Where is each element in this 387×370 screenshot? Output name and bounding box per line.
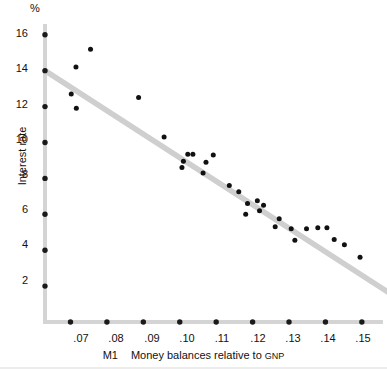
y-tick-dot-8	[42, 176, 47, 181]
x-tick-dot-01	[177, 319, 182, 324]
data-point	[255, 198, 260, 203]
data-point	[342, 242, 347, 247]
x-tick-dot-011	[213, 319, 218, 324]
data-point	[73, 65, 78, 70]
x-tick-dot-007	[68, 319, 73, 324]
data-point	[273, 224, 278, 229]
x-tick-dot-009	[141, 319, 146, 324]
x-tick-dot-014	[323, 319, 328, 324]
data-point	[358, 255, 363, 260]
x-tick-dot-008	[104, 319, 109, 324]
data-point	[324, 225, 329, 230]
data-point	[243, 212, 248, 217]
data-point	[304, 226, 309, 231]
data-point	[181, 159, 186, 164]
y-tick-dot-16	[42, 32, 47, 37]
y-tick-dot-12	[42, 104, 47, 109]
y-tick-dot-2	[42, 283, 47, 288]
plot-area	[0, 0, 387, 370]
data-point	[136, 95, 141, 100]
data-point	[88, 47, 93, 52]
chart-figure: % Interest rate 16 14 12 10 8 6 4 2 .07 …	[0, 0, 387, 370]
data-point	[332, 237, 337, 242]
trend-line	[45, 71, 387, 296]
data-point	[203, 160, 208, 165]
data-point	[179, 165, 184, 170]
data-point	[162, 135, 167, 140]
x-tick-dot-013	[286, 319, 291, 324]
data-point	[201, 171, 206, 176]
scatter-points	[69, 47, 363, 260]
data-point	[69, 92, 74, 97]
data-point	[227, 183, 232, 188]
data-point	[185, 152, 190, 157]
y-tick-dot-6	[42, 212, 47, 217]
data-point	[261, 203, 266, 208]
data-point	[277, 216, 282, 221]
data-point	[289, 226, 294, 231]
x-tick-dot-012	[250, 319, 255, 324]
data-point	[74, 106, 79, 111]
data-point	[257, 208, 262, 213]
x-tick-dot-015	[359, 319, 364, 324]
data-point	[245, 201, 250, 206]
data-point	[211, 153, 216, 158]
y-tick-dot-14	[42, 68, 47, 73]
data-point	[315, 225, 320, 230]
y-tick-dot-4	[42, 247, 47, 252]
data-point	[190, 152, 195, 157]
data-point	[236, 189, 241, 194]
trend-line-segment	[45, 71, 387, 296]
y-tick-dot-10	[42, 140, 47, 145]
data-point	[292, 238, 297, 243]
